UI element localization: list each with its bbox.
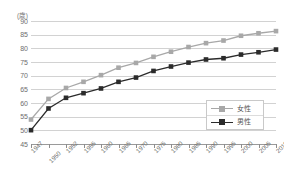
data-point-marker [81,91,86,96]
data-point-marker [186,60,191,65]
data-point-marker [204,41,209,46]
data-point-marker [29,117,34,122]
y-tick-label: 55 [6,113,28,120]
chart-legend: 女性男性 [206,100,264,130]
life-expectancy-chart: (歳) 90858075706560555045 194719501952195… [0,0,284,183]
data-point-marker [151,69,156,74]
data-point-marker [116,80,121,85]
data-point-marker [239,33,244,38]
y-tick-label: 60 [6,100,28,107]
data-point-marker [151,55,156,60]
data-point-marker [221,38,226,43]
y-tick-label: 70 [6,72,28,79]
y-tick-label: 85 [6,31,28,38]
legend-swatch-icon [211,104,233,113]
data-point-marker [64,96,69,101]
legend-label: 男性 [237,118,251,126]
x-axis-tick-labels: 1947195019521955196019651970197519801985… [0,148,284,183]
y-tick-label: 45 [6,141,28,148]
data-point-marker [274,47,279,52]
data-point-marker [169,64,174,69]
y-tick-label: 75 [6,59,28,66]
legend-item-男性[interactable]: 男性 [207,115,263,128]
data-point-marker [204,57,209,62]
data-point-marker [46,106,51,111]
data-point-marker [186,45,191,50]
legend-label: 女性 [237,105,251,113]
x-tick-label: 2010 [275,140,284,154]
data-point-marker [29,128,34,133]
legend-item-女性[interactable]: 女性 [207,102,263,115]
data-point-marker [256,31,261,36]
data-point-marker [99,73,104,78]
y-axis-tick-labels: 90858075706560555045 [4,21,28,144]
data-point-marker [99,86,104,91]
data-point-marker [81,80,86,85]
data-point-marker [46,97,51,102]
data-point-marker [256,50,261,55]
data-point-marker [134,61,139,66]
y-tick-label: 80 [6,45,28,52]
legend-swatch-icon [211,118,233,127]
y-tick-label: 50 [6,127,28,134]
data-point-marker [169,49,174,54]
data-point-marker [116,65,121,70]
data-point-marker [64,86,69,91]
data-point-marker [239,52,244,57]
data-point-marker [221,56,226,61]
data-point-marker [274,29,279,34]
y-tick-label: 65 [6,86,28,93]
x-tick-label: 1950 [48,150,62,164]
data-point-marker [134,75,139,80]
y-tick-label: 90 [6,18,28,25]
